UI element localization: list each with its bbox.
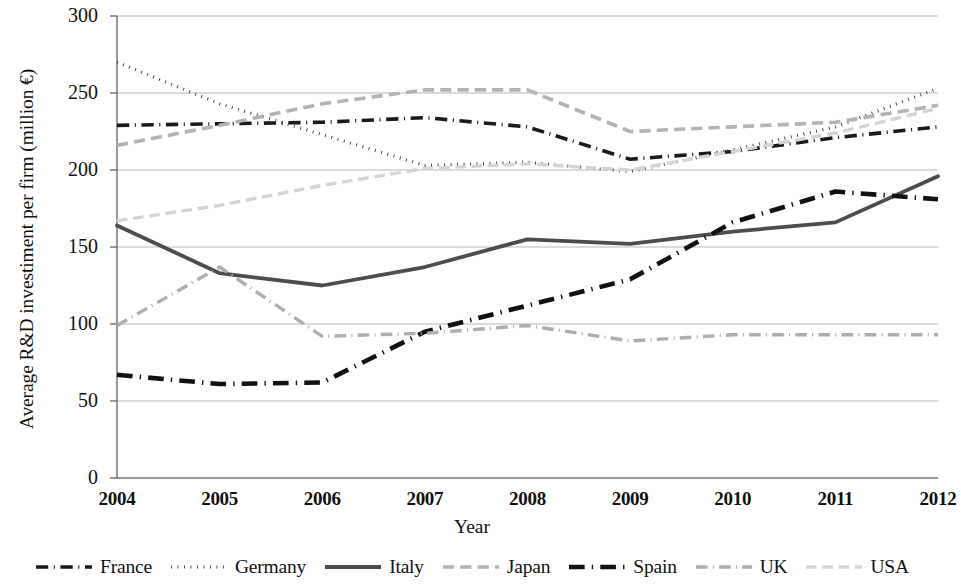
series-line-uk xyxy=(117,267,938,341)
legend-item-france[interactable]: France xyxy=(35,556,152,578)
x-tick-label: 2005 xyxy=(180,488,260,510)
series-line-italy xyxy=(117,176,938,285)
grid-lines xyxy=(117,16,938,478)
x-tick-label: 2008 xyxy=(488,488,568,510)
legend-item-uk[interactable]: UK xyxy=(695,556,788,578)
legend-swatch-japan xyxy=(442,560,500,574)
x-tick-label: 2012 xyxy=(898,488,961,510)
legend-label: France xyxy=(100,556,152,578)
legend-swatch-usa xyxy=(805,560,863,574)
legend-label: Japan xyxy=(507,556,550,578)
x-tick-label: 2011 xyxy=(795,488,875,510)
x-tick-label: 2010 xyxy=(693,488,773,510)
x-axis-tick-labels: 200420052006200720082009201020112012 xyxy=(0,488,944,516)
x-tick-label: 2006 xyxy=(282,488,362,510)
legend-label: Spain xyxy=(633,556,676,578)
legend-label: USA xyxy=(870,556,908,578)
x-tick-label: 2007 xyxy=(385,488,465,510)
legend-label: Italy xyxy=(389,556,424,578)
legend-item-spain[interactable]: Spain xyxy=(568,556,676,578)
legend-swatch-italy xyxy=(324,560,382,574)
legend-swatch-germany xyxy=(170,560,228,574)
legend-item-japan[interactable]: Japan xyxy=(442,556,550,578)
legend-item-usa[interactable]: USA xyxy=(805,556,908,578)
x-tick-label: 2004 xyxy=(77,488,157,510)
series-line-spain xyxy=(117,192,938,385)
x-tick-label: 2009 xyxy=(590,488,670,510)
legend-label: Germany xyxy=(235,556,306,578)
legend-item-italy[interactable]: Italy xyxy=(324,556,424,578)
series-line-germany xyxy=(117,62,938,171)
chart-legend: FranceGermanyItalyJapanSpainUKUSA xyxy=(0,550,944,584)
legend-label: UK xyxy=(760,556,788,578)
x-axis-title: Year xyxy=(0,516,944,538)
legend-swatch-uk xyxy=(695,560,753,574)
legend-swatch-france xyxy=(35,560,93,574)
legend-item-germany[interactable]: Germany xyxy=(170,556,306,578)
legend-swatch-spain xyxy=(568,560,626,574)
